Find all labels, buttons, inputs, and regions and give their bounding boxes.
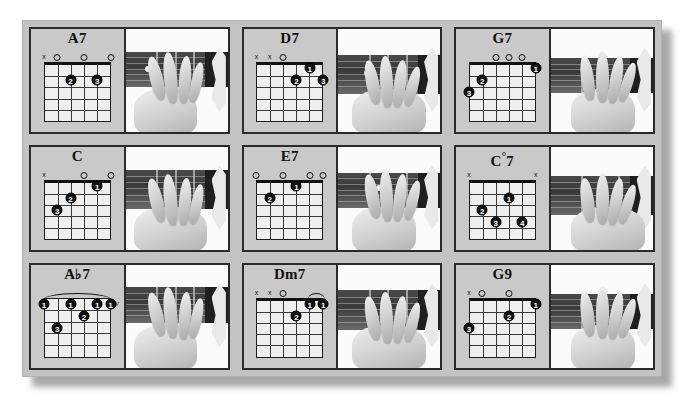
string-line <box>509 183 510 239</box>
finger-dot: 1 <box>530 298 541 309</box>
string-line <box>84 65 85 121</box>
open-string-icon <box>492 54 499 61</box>
chord-row: A7x23D7xx123G7123 <box>29 27 655 134</box>
fretboard-diagram: 1234 <box>469 180 536 240</box>
fret-grid <box>469 298 536 358</box>
chord-row: Cx123E712C°7xx1234 <box>29 145 655 252</box>
hand-position-photo <box>549 265 653 368</box>
fretboard-diagram: 123 <box>469 62 536 122</box>
chord-cell-c7[interactable]: C°7xx1234 <box>454 145 655 252</box>
chord-name-quality: 7 <box>298 266 306 282</box>
chord-diagram: G9x123 <box>456 265 549 368</box>
string-line <box>270 301 271 357</box>
string-line <box>296 301 297 357</box>
fretboard-diagram: 12 <box>256 180 323 240</box>
fret-grid <box>256 180 323 240</box>
fret-line <box>45 194 110 195</box>
fret-line <box>257 76 322 77</box>
fret-grid <box>44 62 111 122</box>
string-line <box>270 65 271 121</box>
chord-row: A♭7111123IVDm7xx112G9x123 <box>29 263 655 370</box>
muted-string-icon: x <box>467 170 471 179</box>
chord-cell-g9[interactable]: G9x123 <box>454 263 655 370</box>
open-string-icon <box>280 172 287 179</box>
hand-position-photo <box>549 147 653 250</box>
chord-name-root: Dm <box>274 266 298 282</box>
muted-string-icon: x <box>42 170 46 179</box>
fretboard-diagram: 123 <box>256 62 323 122</box>
finger-dot: 3 <box>52 322 63 333</box>
chord-name-root: A <box>64 266 75 282</box>
chord-cell-g7[interactable]: G7123 <box>454 27 655 134</box>
string-line <box>84 299 85 357</box>
fret-line <box>257 87 322 88</box>
hand-position-photo <box>336 265 440 368</box>
hand-position-photo <box>124 29 228 132</box>
muted-string-icon: x <box>534 170 538 179</box>
chord-cell-c[interactable]: Cx123 <box>29 145 230 252</box>
fret-line <box>470 110 535 111</box>
hand-position-photo <box>336 147 440 250</box>
muted-string-icon: x <box>42 52 46 61</box>
chord-cell-a7[interactable]: A♭7111123IV <box>29 263 230 370</box>
fret-line <box>257 323 322 324</box>
string-line <box>71 65 72 121</box>
string-line <box>270 183 271 239</box>
hand-position-g7-image <box>551 29 653 132</box>
fret-position-label: IV <box>112 300 119 308</box>
finger-dot: 2 <box>477 204 488 215</box>
fret-line <box>257 99 322 100</box>
string-line <box>97 65 98 121</box>
hand-position-dm7-image <box>338 265 440 368</box>
chord-cell-d7[interactable]: D7xx123 <box>242 27 443 134</box>
chord-name: Dm7 <box>244 266 337 282</box>
chord-cell-a7[interactable]: A7x23 <box>29 27 230 134</box>
string-line <box>496 65 497 121</box>
fret-line <box>470 323 535 324</box>
chord-diagram: Dm7xx112 <box>244 265 337 368</box>
string-markers <box>256 170 323 179</box>
chord-chart-plate: A7x23D7xx123G7123Cx123E712C°7xx1234A♭711… <box>22 20 662 377</box>
finger-dot: 1 <box>503 192 514 203</box>
chord-name-accidental: ♭ <box>75 267 82 282</box>
fret-line <box>45 345 110 346</box>
string-markers: x <box>44 52 111 61</box>
open-string-icon <box>107 54 114 61</box>
fretboard-diagram: 123 <box>469 298 536 358</box>
string-line <box>522 183 523 239</box>
string-line <box>58 65 59 121</box>
chord-name-quality: 7 <box>79 30 87 46</box>
chord-cell-dm7[interactable]: Dm7xx112 <box>242 263 443 370</box>
finger-dot: 2 <box>65 75 76 86</box>
finger-dot: 1 <box>38 298 49 309</box>
fret-line <box>470 87 535 88</box>
muted-string-icon: x <box>467 288 471 297</box>
finger-dot: 2 <box>65 192 76 203</box>
fret-line <box>257 110 322 111</box>
fret-line <box>470 228 535 229</box>
chord-diagram: D7xx123 <box>244 29 337 132</box>
chord-grid: A7x23D7xx123G7123Cx123E712C°7xx1234A♭711… <box>29 27 655 370</box>
string-line <box>71 183 72 239</box>
fret-line <box>257 334 322 335</box>
string-line <box>296 65 297 121</box>
hand-position-d7-image <box>338 29 440 132</box>
fret-line <box>45 216 110 217</box>
fret-line <box>45 333 110 334</box>
fret-line <box>45 99 110 100</box>
open-string-icon <box>479 290 486 297</box>
finger-dot: 3 <box>52 204 63 215</box>
string-line <box>522 301 523 357</box>
fretboard-diagram: 111123IV <box>44 298 111 358</box>
fretboard-diagram: 123 <box>44 180 111 240</box>
chord-name: C <box>31 148 124 164</box>
chord-cell-e7[interactable]: E712 <box>242 145 443 252</box>
chord-diagram: G7123 <box>456 29 549 132</box>
fret-line <box>45 87 110 88</box>
string-line <box>309 183 310 239</box>
string-line <box>509 301 510 357</box>
hand-position-c-dim7-image <box>551 147 653 250</box>
finger-dot: 2 <box>503 310 514 321</box>
fret-line <box>257 312 322 313</box>
string-line <box>509 65 510 121</box>
